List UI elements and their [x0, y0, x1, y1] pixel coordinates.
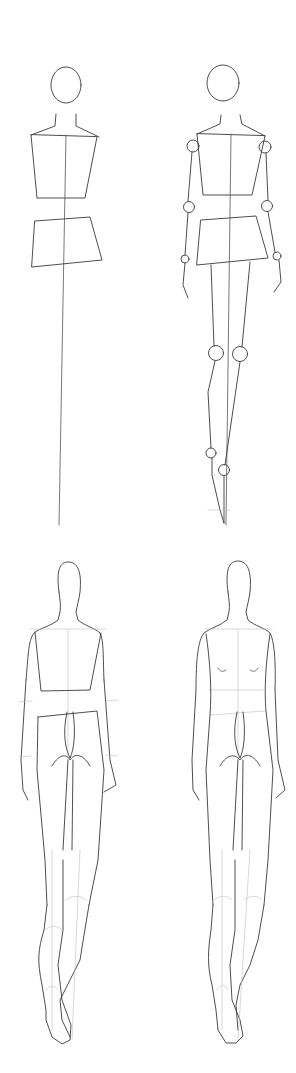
head-oval	[207, 65, 239, 101]
buttocks	[220, 712, 260, 766]
ankle-joint-right	[219, 465, 230, 476]
left-lower-leg	[39, 860, 71, 1044]
wrist-joint-left	[181, 255, 189, 263]
head-neck-left	[26, 592, 60, 680]
buttocks	[52, 712, 90, 766]
hip-box	[32, 217, 102, 267]
head-neck-right	[58, 562, 104, 680]
elbow-joint-left	[184, 202, 195, 213]
balance-line	[59, 135, 66, 525]
arm-joint-guides	[19, 700, 118, 757]
neck-shoulders	[197, 115, 265, 136]
ankle-joint-left	[206, 448, 216, 458]
inner-legs	[63, 760, 73, 850]
torso-legs-outline	[206, 634, 273, 905]
neck-shoulders	[31, 114, 99, 137]
step-4-figure	[192, 561, 285, 1043]
right-lower-leg	[60, 905, 89, 1037]
shoulder-joint-right	[259, 141, 271, 153]
center-guides	[205, 629, 272, 760]
step-3-figure	[19, 562, 118, 1044]
center-guides	[30, 629, 106, 760]
leg-guides	[214, 850, 262, 1040]
left-lower-leg	[209, 860, 244, 1043]
step-2-figure	[181, 65, 281, 525]
wrist-joint-right	[273, 252, 281, 260]
torso-box	[31, 135, 97, 198]
hip-legs-outline	[37, 711, 104, 905]
head-oval	[51, 67, 81, 103]
knee-joint-left	[209, 346, 224, 361]
inner-legs	[233, 760, 243, 850]
knee-joint-right	[233, 347, 248, 362]
step-1-figure	[31, 67, 102, 525]
shoulder-joint-left	[187, 140, 199, 152]
elbow-joint-right	[262, 201, 273, 212]
leg-guides	[45, 850, 86, 1040]
right-lower-leg	[236, 905, 264, 1030]
contour-right	[227, 561, 285, 798]
figure-drawing-canvas	[0, 0, 296, 1073]
hip-box	[197, 216, 268, 265]
arms	[21, 680, 116, 800]
arm-lines	[183, 152, 281, 298]
